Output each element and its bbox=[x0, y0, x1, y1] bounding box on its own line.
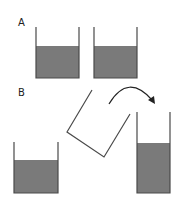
panel-a: A bbox=[18, 17, 137, 78]
container-b2 bbox=[137, 112, 170, 193]
container-a2 bbox=[94, 27, 137, 78]
panel-a-label: A bbox=[18, 17, 25, 28]
liquid-b1 bbox=[14, 160, 58, 193]
liquid-a1 bbox=[36, 46, 79, 78]
pour-arrow bbox=[109, 87, 155, 104]
panel-b: B bbox=[14, 87, 170, 193]
liquid-b2 bbox=[137, 143, 170, 193]
liquid-a2 bbox=[94, 46, 137, 78]
tilted-container bbox=[67, 90, 130, 157]
pouring-diagram: A B bbox=[0, 0, 182, 208]
panel-b-label: B bbox=[18, 87, 25, 98]
container-b1 bbox=[14, 142, 58, 193]
tilted-container-walls bbox=[67, 90, 130, 157]
pour-arrow-arc bbox=[109, 87, 153, 104]
container-a1 bbox=[36, 27, 79, 78]
